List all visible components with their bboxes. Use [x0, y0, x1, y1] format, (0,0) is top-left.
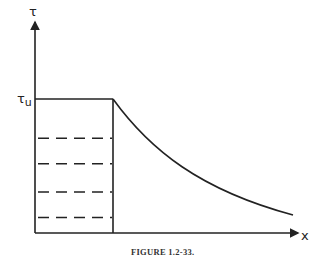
y-axis-label: τ	[29, 4, 37, 19]
x-axis-label: x	[301, 228, 309, 243]
figure-caption: FIGURE 1.2-33.	[131, 247, 194, 257]
figure-canvas: τ x τu FIGURE 1.2-33.	[0, 0, 322, 263]
decay-curve	[113, 99, 293, 215]
tau-u-main: τ	[17, 91, 25, 106]
tau-u-subscript: u	[25, 96, 32, 109]
tau-u-label: τu	[17, 91, 32, 109]
hatch-lines	[38, 138, 112, 217]
